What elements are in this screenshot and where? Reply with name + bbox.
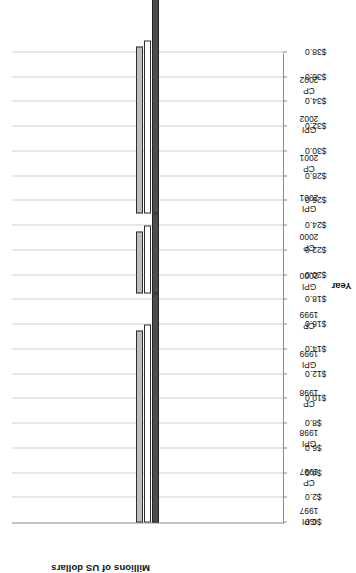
bar bbox=[152, 0, 159, 213]
bar-wrapper bbox=[144, 293, 151, 522]
bar-wrapper bbox=[152, 0, 159, 213]
category-name: GPI bbox=[302, 437, 316, 448]
category-name: CP bbox=[303, 476, 315, 487]
category-name: GPI bbox=[302, 124, 316, 135]
category-name: CP bbox=[303, 85, 315, 96]
category-name: GPI bbox=[302, 515, 316, 526]
bar-group bbox=[12, 0, 283, 213]
x-axis-tick-label: CP2002 bbox=[289, 50, 328, 96]
category-name: CP bbox=[303, 320, 315, 331]
category-year: 2001 bbox=[300, 191, 319, 202]
category-year: 1997 bbox=[300, 465, 319, 476]
y-axis-title: Millions of US dollars bbox=[0, 562, 150, 573]
x-axis-tick-label: GPI1998 bbox=[289, 402, 328, 448]
category-year: 1999 bbox=[300, 309, 319, 320]
x-axis-tick-label: GPI2001 bbox=[289, 167, 328, 213]
category-name: CP bbox=[303, 163, 315, 174]
category-year: 2002 bbox=[300, 113, 319, 124]
category-name: CP bbox=[303, 241, 315, 252]
bar-wrapper bbox=[136, 0, 143, 213]
bar-wrapper bbox=[144, 0, 151, 213]
tick-mark bbox=[283, 51, 287, 52]
bar-group bbox=[12, 293, 283, 522]
bar bbox=[136, 46, 143, 213]
bar bbox=[152, 293, 159, 522]
bar-wrapper bbox=[136, 293, 143, 522]
category-year: 2000 bbox=[300, 269, 319, 280]
category-year: 1998 bbox=[300, 426, 319, 437]
category-name: GPI bbox=[302, 359, 316, 370]
bar-wrapper bbox=[152, 293, 159, 522]
category-year: 1997 bbox=[300, 504, 319, 515]
category-year: 1999 bbox=[300, 348, 319, 359]
category-name: CP bbox=[303, 398, 315, 409]
category-year: 2002 bbox=[300, 74, 319, 85]
category-year: 2001 bbox=[300, 152, 319, 163]
category-year: 1998 bbox=[300, 387, 319, 398]
category-year: 2000 bbox=[300, 230, 319, 241]
bar bbox=[136, 330, 143, 522]
category-name: GPI bbox=[302, 202, 316, 213]
x-axis-title: Year bbox=[56, 280, 356, 291]
bar bbox=[144, 324, 151, 522]
bar bbox=[144, 40, 151, 213]
